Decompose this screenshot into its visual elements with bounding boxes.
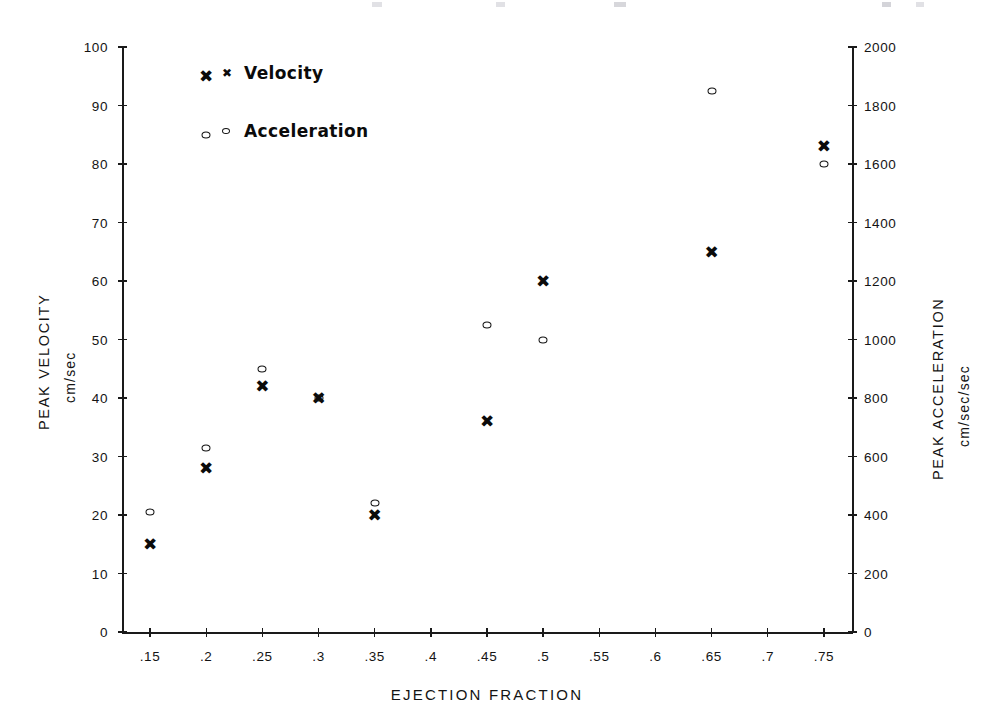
left-axis-tick (118, 397, 127, 398)
scan-artifact (372, 2, 382, 7)
x-axis-tick (206, 628, 207, 637)
data-point-acceleration (146, 509, 155, 516)
x-axis-tick-label: .65 (701, 649, 722, 664)
right-axis-tick (848, 280, 857, 281)
right-axis-tick-label: 1200 (864, 274, 896, 289)
right-axis-tick-label: 0 (864, 625, 872, 640)
left-axis-tick-label: 80 (64, 157, 108, 172)
left-axis-tick-label: 100 (64, 40, 108, 55)
legend-marker-circle-icon (222, 128, 230, 134)
right-axis-tick (848, 456, 857, 457)
left-axis-tick (118, 46, 127, 47)
scan-artifact (882, 2, 891, 7)
scan-artifact (496, 2, 505, 7)
data-point-velocity: ✖ (480, 413, 494, 430)
x-axis-tick (655, 628, 656, 637)
data-point-velocity: ✖ (143, 536, 157, 553)
legend-marker-x-icon: ✖ (222, 66, 232, 80)
right-axis-tick-label: 600 (864, 449, 888, 464)
right-axis-tick-label: 1600 (864, 157, 896, 172)
right-axis-units: cm/sec/sec (956, 365, 972, 447)
data-point-velocity: ✖ (199, 68, 213, 85)
right-axis-tick-label: 200 (864, 566, 888, 581)
right-axis-tick-label: 1000 (864, 332, 896, 347)
x-axis-tick-label: .7 (762, 649, 774, 664)
x-axis-tick-label: .4 (425, 649, 437, 664)
left-axis-tick (118, 456, 127, 457)
x-axis-tick (318, 628, 319, 637)
scatter-plot-figure: 0102030405060708090100 02004006008001000… (0, 0, 991, 719)
data-point-acceleration (202, 131, 211, 138)
right-axis-tick (848, 514, 857, 515)
x-axis-tick-label: .6 (649, 649, 661, 664)
left-axis-tick (118, 105, 127, 106)
legend-label-acceleration: Acceleration (244, 121, 369, 141)
x-axis-tick (767, 628, 768, 637)
left-axis-tick (118, 280, 127, 281)
right-axis-tick-label: 400 (864, 508, 888, 523)
right-axis-tick-label: 2000 (864, 40, 896, 55)
data-point-velocity: ✖ (255, 378, 269, 395)
x-axis-tick (542, 628, 543, 637)
left-axis-title: PEAK VELOCITY (36, 293, 52, 430)
right-axis-tick (848, 105, 857, 106)
right-axis-tick-label: 800 (864, 391, 888, 406)
scan-artifact (614, 2, 626, 7)
x-axis-tick-label: .35 (364, 649, 385, 664)
x-axis-tick-label: .25 (252, 649, 273, 664)
data-point-acceleration (539, 336, 548, 343)
left-axis-tick-label: 90 (64, 98, 108, 113)
data-point-acceleration (258, 365, 267, 372)
x-axis-tick (430, 628, 431, 637)
right-axis-tick (848, 46, 857, 47)
legend-label-velocity: Velocity (244, 63, 324, 83)
left-axis-tick-label: 60 (64, 274, 108, 289)
left-axis-tick-label: 30 (64, 449, 108, 464)
x-axis-tick (711, 628, 712, 637)
right-axis-tick (848, 573, 857, 574)
right-axis-tick (848, 397, 857, 398)
left-axis-tick-label: 20 (64, 508, 108, 523)
right-axis-title: PEAK ACCELERATION (930, 297, 946, 480)
data-point-acceleration (314, 395, 323, 402)
left-axis-tick-label: 70 (64, 215, 108, 230)
x-axis-tick-label: .3 (312, 649, 324, 664)
left-axis-units: cm/sec (62, 351, 78, 403)
data-point-velocity: ✖ (704, 243, 718, 260)
right-axis-tick (848, 222, 857, 223)
data-point-velocity: ✖ (817, 138, 831, 155)
data-point-velocity: ✖ (368, 507, 382, 524)
left-axis-tick (118, 339, 127, 340)
x-axis-tick (599, 628, 600, 637)
data-point-acceleration (483, 321, 492, 328)
x-axis-tick-label: .45 (477, 649, 498, 664)
right-axis-tick-label: 1800 (864, 98, 896, 113)
data-point-acceleration (707, 87, 716, 94)
x-axis-tick-label: .75 (814, 649, 835, 664)
left-axis-tick-label: 50 (64, 332, 108, 347)
left-axis-tick-label: 0 (64, 625, 108, 640)
x-axis-tick (262, 628, 263, 637)
data-point-acceleration (370, 500, 379, 507)
right-axis-tick (848, 339, 857, 340)
left-axis-tick (118, 514, 127, 515)
right-axis-tick (848, 631, 857, 632)
x-axis-tick (374, 628, 375, 637)
left-axis-tick (118, 573, 127, 574)
x-axis-tick-label: .55 (589, 649, 610, 664)
x-axis-title: EJECTION FRACTION (391, 686, 583, 703)
left-axis-tick (118, 222, 127, 223)
x-axis-tick (823, 628, 824, 637)
scan-artifact (916, 2, 924, 7)
x-axis-tick-label: .15 (140, 649, 161, 664)
right-axis-tick-label: 1400 (864, 215, 896, 230)
right-axis-tick (848, 163, 857, 164)
data-point-velocity: ✖ (536, 273, 550, 290)
left-axis-tick (118, 163, 127, 164)
x-axis-tick (149, 628, 150, 637)
data-point-velocity: ✖ (199, 460, 213, 477)
left-axis-tick (118, 631, 127, 632)
data-point-acceleration (202, 444, 211, 451)
left-axis-tick-label: 10 (64, 566, 108, 581)
x-axis-tick (486, 628, 487, 637)
